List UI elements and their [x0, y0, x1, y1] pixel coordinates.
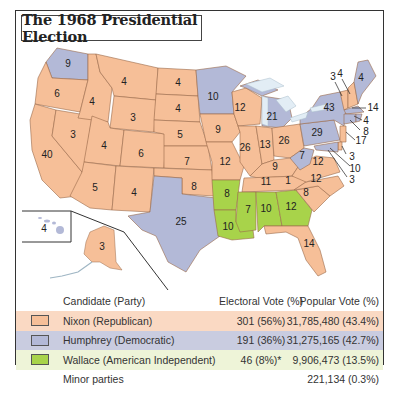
label-al: 10	[260, 203, 272, 214]
legend-row-nixon: Nixon (Republican) 301 (56%) 31,785,480 …	[16, 311, 383, 331]
label-md: 10	[349, 163, 361, 174]
map-title-box: The 1968 Presidential Election	[21, 15, 202, 41]
label-mn: 10	[207, 91, 219, 102]
label-nd: 4	[175, 77, 181, 88]
label-va: 12	[312, 156, 324, 167]
header-popular: Popular Vote (%)	[300, 295, 379, 307]
popular-vote: 221,134 (0.3%)	[307, 373, 379, 385]
label-mi: 21	[266, 111, 278, 122]
label-dc: 3	[349, 174, 355, 185]
label-ok: 8	[191, 181, 197, 192]
label-wv: 7	[299, 150, 305, 161]
label-ca: 40	[41, 149, 53, 160]
label-ne: 5	[177, 129, 183, 140]
label-ar: 8	[224, 188, 230, 199]
label-hi: 4	[41, 223, 47, 234]
label-tn: 11	[261, 176, 272, 187]
label-nc-faithless: 1	[285, 175, 291, 186]
header-electoral: Electoral Vote (%)	[216, 295, 306, 307]
label-ms: 7	[245, 204, 251, 215]
state-fl	[264, 226, 326, 276]
label-ia: 9	[215, 124, 221, 135]
label-vt: 3	[330, 71, 336, 82]
label-nm: 4	[131, 187, 137, 198]
label-de: 3	[349, 151, 355, 162]
aleutian-islands	[50, 262, 92, 278]
state-nj	[340, 126, 346, 142]
label-nj: 17	[355, 135, 367, 146]
candidate-name: Humphrey (Democratic)	[63, 334, 174, 346]
legend-header-row: Candidate (Party) Electoral Vote (%) Pop…	[16, 291, 383, 311]
label-nv: 3	[70, 129, 76, 140]
state-de	[338, 142, 342, 150]
label-id: 4	[89, 96, 95, 107]
label-ks: 7	[184, 156, 190, 167]
popular-vote: 31,785,480 (43.4%)	[287, 315, 379, 327]
results-legend-table: Candidate (Party) Electoral Vote (%) Pop…	[16, 291, 383, 389]
label-sc: 8	[303, 187, 309, 198]
nixon-color-swatch	[31, 315, 49, 326]
label-or: 6	[54, 88, 60, 99]
label-co: 6	[138, 148, 144, 159]
label-ma: 14	[367, 102, 379, 113]
label-az: 5	[92, 182, 98, 193]
legend-row-minor-parties: Minor parties 221,134 (0.3%)	[16, 370, 383, 390]
label-oh: 26	[278, 135, 290, 146]
popular-vote: 9,906,473 (13.5%)	[293, 354, 379, 366]
label-il: 26	[239, 142, 251, 153]
label-pa: 29	[311, 127, 323, 138]
state-ct	[344, 114, 356, 124]
wallace-color-swatch	[31, 354, 49, 365]
popular-vote: 31,275,165 (42.7%)	[287, 334, 379, 346]
label-ut: 4	[101, 140, 107, 151]
label-mo: 12	[219, 156, 231, 167]
label-wi: 12	[234, 102, 246, 113]
label-fl: 14	[303, 238, 315, 249]
label-nc: 12	[310, 173, 322, 184]
candidate-name: Minor parties	[63, 373, 124, 385]
label-nh: 4	[337, 68, 343, 79]
label-la: 10	[222, 221, 234, 232]
candidate-name: Wallace (American Independent)	[63, 354, 216, 366]
legend-row-humphrey: Humphrey (Democratic) 191 (36%) 31,275,1…	[16, 331, 383, 351]
label-sd: 4	[175, 103, 181, 114]
label-wy: 3	[130, 112, 136, 123]
label-wa: 9	[65, 58, 71, 69]
label-me: 4	[358, 72, 364, 83]
label-in: 13	[259, 139, 271, 150]
label-ga: 12	[285, 201, 297, 212]
map-title: The 1968 Presidential Election	[22, 11, 201, 45]
header-candidate: Candidate (Party)	[63, 295, 145, 307]
candidate-name: Nixon (Republican)	[63, 315, 152, 327]
label-ny: 43	[323, 102, 335, 113]
state-ri	[356, 114, 362, 122]
label-ky: 9	[272, 161, 278, 172]
label-ak: 3	[99, 241, 105, 252]
label-mt: 4	[121, 76, 127, 87]
humphrey-color-swatch	[31, 335, 49, 346]
label-ri: 4	[363, 115, 369, 126]
label-tx: 25	[175, 216, 187, 227]
legend-row-wallace: Wallace (American Independent) 46 (8%)* …	[16, 350, 383, 370]
